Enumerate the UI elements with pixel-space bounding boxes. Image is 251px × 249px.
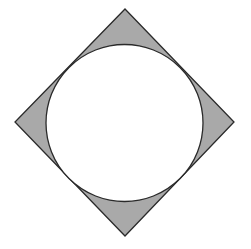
inscribed-circle xyxy=(46,45,203,202)
diagram-canvas xyxy=(0,0,251,249)
diagram: Circle inscribed in a square rotated 45 … xyxy=(0,0,251,249)
